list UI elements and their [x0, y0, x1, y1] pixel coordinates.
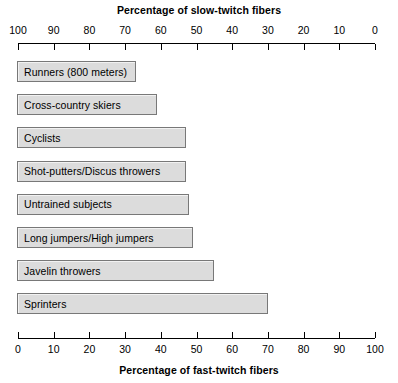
bottom-axis-tick [232, 332, 233, 338]
slow-twitch-fast-twitch-bar-chart: Percentage of slow-twitch fibers 1009080… [0, 0, 398, 383]
bottom-axis-tick-label: 90 [319, 343, 359, 355]
bottom-axis-tick [375, 332, 376, 338]
bar: Sprinters [17, 293, 268, 314]
bottom-axis-title: Percentage of fast-twitch fibers [0, 364, 398, 376]
bars-container: Runners (800 meters)Cross-country skiers… [0, 0, 398, 383]
bar-label: Runners (800 meters) [24, 66, 127, 77]
bar-label: Shot-putters/Discus throwers [24, 166, 160, 177]
bottom-axis-tick-label: 20 [69, 343, 109, 355]
bar: Cross-country skiers [17, 94, 157, 115]
bottom-axis-tick-label: 50 [177, 343, 217, 355]
bar: Javelin throwers [17, 260, 214, 281]
bottom-axis-tick [339, 332, 340, 338]
bottom-axis-line [18, 338, 375, 339]
bar-label: Javelin throwers [24, 265, 101, 276]
bar: Untrained subjects [17, 194, 189, 215]
bottom-axis-tick-label: 10 [34, 343, 74, 355]
bottom-axis-tick [197, 332, 198, 338]
bottom-axis-tick-label: 80 [284, 343, 324, 355]
bar: Long jumpers/High jumpers [17, 227, 193, 248]
bottom-axis-tick [161, 332, 162, 338]
bar-label: Untrained subjects [24, 199, 112, 210]
bottom-axis-tick [304, 332, 305, 338]
bottom-axis-tick-label: 30 [105, 343, 145, 355]
bar: Shot-putters/Discus throwers [17, 161, 186, 182]
bar: Cyclists [17, 127, 186, 148]
bottom-axis-tick [18, 332, 19, 338]
bar-label: Sprinters [24, 298, 66, 309]
bottom-axis-tick-label: 100 [355, 343, 395, 355]
bottom-axis-tick-label: 70 [248, 343, 288, 355]
bottom-axis-tick [125, 332, 126, 338]
bottom-axis-tick-label: 60 [212, 343, 252, 355]
bar-label: Cross-country skiers [24, 99, 121, 110]
bottom-axis-tick-label: 0 [0, 343, 38, 355]
bar: Runners (800 meters) [17, 61, 136, 82]
bar-label: Long jumpers/High jumpers [24, 232, 154, 243]
bar-label: Cyclists [24, 132, 61, 143]
bottom-axis-tick [268, 332, 269, 338]
bottom-axis-tick [89, 332, 90, 338]
bottom-axis-tick [54, 332, 55, 338]
bottom-axis-tick-label: 40 [141, 343, 181, 355]
